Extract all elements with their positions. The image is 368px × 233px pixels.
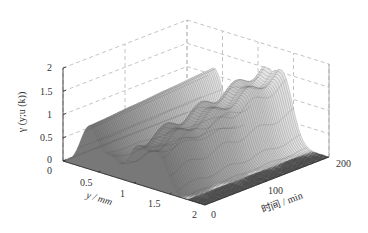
- z-tick-2: 2: [47, 63, 52, 73]
- t-tick-0: 0: [211, 210, 216, 220]
- z-tick-0.5: 0.5: [40, 133, 53, 143]
- surface-plot: [0, 0, 368, 233]
- z-tick-1.5: 1.5: [40, 87, 53, 97]
- y-tick-0.5: 0.5: [80, 178, 93, 188]
- surface-mesh: [63, 67, 329, 205]
- z-axis-label: γ (y;u (k)): [17, 82, 27, 142]
- y-tick-1: 1: [120, 189, 125, 199]
- y-tick-2: 2: [192, 210, 197, 220]
- t-tick-100: 100: [268, 186, 283, 196]
- z-tick-0: 0: [47, 155, 52, 165]
- z-tick-1: 1: [47, 110, 52, 120]
- y-tick-1.5: 1.5: [148, 199, 161, 209]
- t-tick-200: 200: [336, 159, 351, 169]
- y-tick-0: 0: [47, 166, 52, 176]
